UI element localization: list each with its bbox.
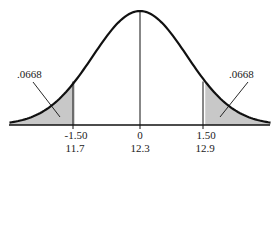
right-z-tick-label: 1.50 [196,130,215,141]
left-value-tick-label: 11.7 [66,143,85,154]
left-tail-shade [10,82,75,125]
center-z-tick-label: 0 [137,130,143,141]
right-value-tick-label: 12.9 [195,143,214,154]
left-z-tick-label: -1.50 [65,130,88,141]
center-value-tick-label: 12.3 [130,143,149,154]
right-area-label: .0668 [229,69,254,80]
left-area-label: .0668 [17,69,42,80]
right-tail-shade [205,82,270,125]
